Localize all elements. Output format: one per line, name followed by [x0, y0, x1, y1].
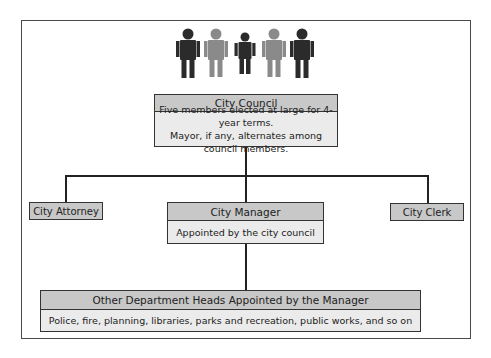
- city-council-description: Five members elected at large for 4-year…: [155, 112, 337, 146]
- connector-clerk: [427, 175, 429, 204]
- city-clerk-box: City Clerk: [390, 203, 464, 221]
- people-group-icon: [176, 28, 314, 80]
- connector-horizontal: [65, 175, 428, 177]
- department-heads-subtitle: Police, fire, planning, libraries, parks…: [41, 310, 420, 331]
- city-council-box: City Council Five members elected at lar…: [154, 94, 338, 147]
- connector-attorney: [65, 175, 67, 203]
- council-members-icon: [176, 28, 314, 80]
- connector-manager-down: [245, 243, 247, 290]
- city-attorney-title: City Attorney: [33, 206, 99, 217]
- city-attorney-box: City Attorney: [29, 202, 103, 220]
- department-heads-title: Other Department Heads Appointed by the …: [41, 291, 420, 310]
- department-heads-box: Other Department Heads Appointed by the …: [40, 290, 421, 332]
- city-manager-subtitle: Appointed by the city council: [168, 221, 323, 243]
- city-manager-title: City Manager: [168, 203, 323, 221]
- city-manager-box: City Manager Appointed by the city counc…: [167, 202, 324, 244]
- council-line-1: Five members elected at large for 4-year…: [155, 103, 337, 129]
- council-line-2: Mayor, if any, alternates among council …: [155, 129, 337, 155]
- city-clerk-title: City Clerk: [403, 207, 452, 218]
